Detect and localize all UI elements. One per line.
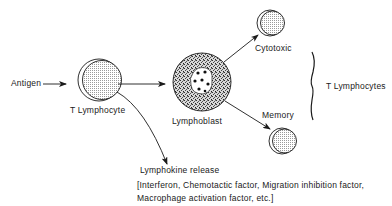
cytotoxic-label: Cytotoxic [255,43,292,53]
antigen-label: Antigen [11,78,41,88]
memory-label: Memory [262,110,294,120]
lymphoblast-cell-icon [173,53,231,111]
lymphokine-list-line1: [Interferon, Chemotactic factor, Migrati… [137,180,364,190]
t-lymphocyte-label: T Lymphocyte [70,105,125,115]
t-lymphocytes-group-label: T Lymphocytes [326,81,386,91]
lymphoblast-label: Lymphoblast [172,116,222,126]
curly-brace-icon [311,52,314,120]
cytotoxic-cell-icon [257,10,285,36]
arrow-tlymphocyte-to-lymphokine [117,92,167,164]
t-lymphocyte-cell-icon [78,59,122,101]
diagram-canvas [0,0,392,206]
lymphokine-title: Lymphokine release [140,165,219,175]
arrow-lymphoblast-to-cytotoxic [224,35,258,62]
lymphokine-list-line2: Macrophage activation factor, etc.] [137,193,273,203]
memory-cell-icon [269,128,297,154]
